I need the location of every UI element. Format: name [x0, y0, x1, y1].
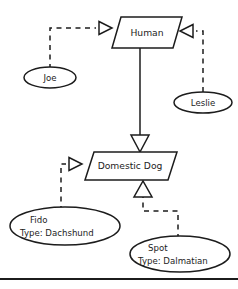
link-spot-to-domestic-dog[interactable] [134, 181, 178, 239]
instance-node-joe[interactable]: Joe [24, 67, 76, 88]
instance-node-leslie[interactable]: Leslie [174, 92, 232, 113]
link-joe-to-human[interactable] [50, 22, 112, 70]
instance-node-spot-label-line2: Type: Dalmatian [137, 256, 208, 266]
class-node-human-label: Human [130, 27, 163, 38]
link-human-to-domestic-dog-arrowhead [131, 135, 149, 152]
link-spot-to-domestic-dog-arrowhead [134, 181, 152, 197]
instance-node-fido-label-line1: Fido [30, 215, 47, 225]
link-human-to-domestic-dog[interactable] [131, 48, 149, 152]
class-node-human[interactable]: Human [112, 17, 182, 48]
instance-node-spot-shape [130, 236, 230, 272]
instance-node-spot[interactable]: Spot Type: Dalmatian [130, 236, 230, 272]
link-leslie-to-human-path [196, 31, 203, 92]
diagram-svg: Human Domestic Dog Joe [0, 0, 238, 289]
diagram-canvas: Human Domestic Dog Joe [0, 0, 238, 289]
link-leslie-to-human[interactable] [180, 25, 203, 93]
instance-node-fido-label-line2: Type: Dachshund [19, 228, 94, 238]
link-fido-to-domestic-dog[interactable] [61, 158, 82, 212]
link-joe-to-human-arrowhead [99, 22, 112, 35]
link-spot-to-domestic-dog-path [143, 197, 178, 239]
instance-node-spot-label-line1: Spot [148, 243, 168, 253]
class-node-domestic-dog-label: Domestic Dog [98, 160, 163, 171]
class-node-domestic-dog[interactable]: Domestic Dog [85, 152, 177, 180]
link-fido-to-domestic-dog-arrowhead [69, 158, 82, 171]
link-leslie-to-human-arrowhead [180, 25, 193, 38]
instance-node-fido[interactable]: Fido Type: Dachshund [10, 207, 120, 245]
link-joe-to-human-path [50, 28, 96, 69]
instance-node-joe-label: Joe [42, 73, 56, 83]
link-fido-to-domestic-dog-path [61, 164, 66, 211]
instance-node-leslie-label: Leslie [191, 98, 215, 108]
instance-node-fido-shape [10, 207, 120, 245]
